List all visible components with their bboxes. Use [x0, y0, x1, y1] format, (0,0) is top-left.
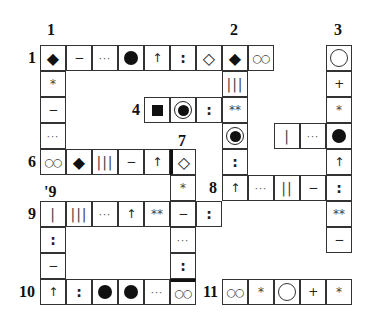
clue-number-across-6: 6: [28, 154, 36, 170]
grid-cell[interactable]: ◆: [66, 149, 92, 175]
grid-cell[interactable]: −: [300, 175, 326, 201]
ellipsis-icon: ···: [99, 53, 112, 64]
grid-cell[interactable]: ↑: [144, 149, 170, 175]
grid-cell[interactable]: ○○: [170, 279, 196, 305]
grid-cell[interactable]: |||: [92, 149, 118, 175]
dash-icon: −: [126, 155, 136, 169]
grid-cell[interactable]: [326, 123, 352, 149]
clue-number-down-1: 1: [47, 22, 55, 38]
grid-cell[interactable]: :: [196, 97, 222, 123]
grid-cell[interactable]: *: [40, 71, 66, 97]
grid-cell[interactable]: **: [144, 201, 170, 227]
grid-cell[interactable]: +: [300, 279, 326, 305]
double-small-circle-icon: ○○: [252, 52, 269, 65]
grid-cell[interactable]: +: [326, 71, 352, 97]
clue-number-down-9: '9: [44, 184, 56, 200]
bullseye-icon: [174, 101, 192, 119]
filled-circle-icon: [98, 285, 112, 299]
grid-cell[interactable]: *: [326, 279, 352, 305]
grid-cell[interactable]: [92, 279, 118, 305]
double-small-circle-icon: ○○: [226, 286, 243, 299]
grid-cell[interactable]: :: [170, 45, 196, 71]
grid-cell[interactable]: −: [118, 149, 144, 175]
grid-cell[interactable]: **: [326, 201, 352, 227]
up-arrow-icon: ↑: [152, 51, 162, 65]
grid-cell[interactable]: [118, 45, 144, 71]
plus-icon: +: [334, 77, 344, 91]
double-asterisk-icon: **: [333, 207, 345, 221]
grid-cell[interactable]: −: [66, 45, 92, 71]
up-arrow-icon: ↑: [48, 285, 58, 299]
colon-icon: :: [232, 154, 238, 170]
grid-cell[interactable]: ◇: [170, 149, 196, 175]
grid-cell[interactable]: ○○: [40, 149, 66, 175]
ellipsis-icon: ···: [307, 131, 320, 142]
outline-circle-icon: [330, 49, 348, 67]
grid-cell[interactable]: :: [66, 279, 92, 305]
grid-cell[interactable]: :: [196, 201, 222, 227]
grid-cell[interactable]: ···: [92, 45, 118, 71]
asterisk-icon: *: [336, 285, 342, 299]
double-small-circle-icon: ○○: [44, 156, 61, 169]
grid-cell[interactable]: :: [40, 227, 66, 253]
grid-cell[interactable]: ○○: [222, 279, 248, 305]
single-bar-icon: |: [284, 128, 290, 144]
grid-cell[interactable]: **: [222, 97, 248, 123]
clue-number-across-1: 1: [28, 50, 36, 66]
grid-cell[interactable]: ↑: [222, 175, 248, 201]
grid-cell[interactable]: ○○: [248, 45, 274, 71]
grid-cell[interactable]: ↑: [40, 279, 66, 305]
grid-cell[interactable]: ···: [40, 123, 66, 149]
grid-cell[interactable]: ···: [92, 201, 118, 227]
grid-cell[interactable]: −: [40, 253, 66, 279]
filled-circle-icon: [124, 51, 138, 65]
ellipsis-icon: ···: [255, 183, 268, 194]
grid-cell[interactable]: −: [170, 201, 196, 227]
clue-number-across-10: 10: [19, 284, 35, 300]
colon-icon: :: [50, 232, 56, 248]
ellipsis-icon: ···: [47, 131, 60, 142]
filled-circle-icon: [124, 285, 138, 299]
grid-cell[interactable]: :: [222, 149, 248, 175]
grid-cell[interactable]: ···: [248, 175, 274, 201]
grid-cell[interactable]: ···: [144, 279, 170, 305]
grid-cell[interactable]: ◆: [40, 45, 66, 71]
dash-icon: −: [74, 51, 84, 65]
grid-cell[interactable]: −: [326, 227, 352, 253]
grid-cell[interactable]: ···: [300, 123, 326, 149]
grid-cell[interactable]: *: [170, 175, 196, 201]
outline-diamond-icon: ◇: [178, 153, 190, 172]
grid-cell[interactable]: [222, 123, 248, 149]
grid-cell[interactable]: ↑: [144, 45, 170, 71]
grid-cell[interactable]: −: [40, 97, 66, 123]
grid-cell[interactable]: |: [40, 201, 66, 227]
symbol-crossword-grid: 123145768'991011◆−···↑:◇◆○○*|||+−:***···…: [0, 0, 372, 328]
filled-diamond-icon: ◆: [47, 49, 59, 68]
outline-diamond-icon: ◇: [203, 49, 215, 68]
grid-cell[interactable]: :: [326, 175, 352, 201]
grid-cell[interactable]: [326, 45, 352, 71]
filled-diamond-icon: ◆: [73, 153, 85, 172]
grid-cell[interactable]: [170, 97, 196, 123]
grid-cell[interactable]: [118, 279, 144, 305]
grid-cell[interactable]: [274, 279, 300, 305]
double-small-circle-icon: ○○: [174, 287, 191, 300]
grid-cell[interactable]: *: [326, 97, 352, 123]
asterisk-icon: *: [258, 285, 264, 299]
asterisk-icon: *: [336, 103, 342, 117]
grid-cell[interactable]: *: [248, 279, 274, 305]
grid-cell[interactable]: ↑: [118, 201, 144, 227]
dash-icon: −: [308, 181, 318, 195]
grid-cell[interactable]: ◆: [222, 45, 248, 71]
grid-cell[interactable]: |||: [66, 201, 92, 227]
grid-cell[interactable]: ···: [170, 227, 196, 253]
grid-cell[interactable]: ||: [274, 175, 300, 201]
clue-number-across-9: 9: [28, 206, 36, 222]
grid-cell[interactable]: :: [170, 253, 196, 279]
outline-circle-icon: [278, 283, 296, 301]
grid-cell[interactable]: ↑: [326, 149, 352, 175]
grid-cell[interactable]: ◇: [196, 45, 222, 71]
grid-cell[interactable]: |: [274, 123, 300, 149]
grid-cell[interactable]: [144, 97, 170, 123]
grid-cell[interactable]: |||: [222, 71, 248, 97]
